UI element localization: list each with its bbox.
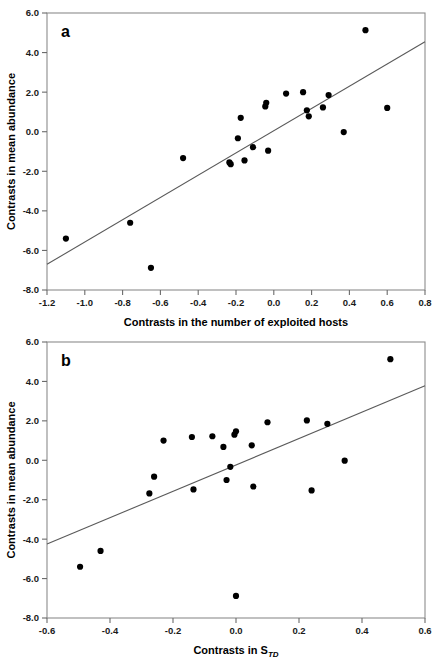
y-axis-tick-label: 6.0 bbox=[26, 336, 39, 347]
x-axis-tick-label: 0.2 bbox=[305, 297, 318, 308]
y-axis-tick-label: 6.0 bbox=[26, 7, 39, 18]
y-axis-tick-label: 4.0 bbox=[26, 47, 39, 58]
x-axis-tick-label: -0.6 bbox=[152, 297, 168, 308]
data-point bbox=[250, 483, 256, 489]
data-point bbox=[384, 105, 390, 111]
y-axis-tick-label: 2.0 bbox=[26, 415, 39, 426]
data-point bbox=[189, 434, 195, 440]
data-point bbox=[341, 129, 347, 135]
y-axis-title: Contrasts in mean abundance bbox=[5, 73, 17, 230]
data-point bbox=[127, 220, 133, 226]
x-axis-title-text: Contrasts in S bbox=[193, 644, 268, 656]
x-axis-tick-label: 0.0 bbox=[267, 297, 280, 308]
panel-b: -0.6-0.4-0.20.00.20.40.66.04.02.00.0-2.0… bbox=[0, 330, 438, 658]
x-axis-tick-label: 0.0 bbox=[229, 625, 242, 636]
data-point bbox=[209, 433, 215, 439]
x-axis-tick-label: -0.6 bbox=[39, 625, 55, 636]
regression-line bbox=[47, 42, 425, 265]
data-point bbox=[235, 135, 241, 141]
data-point bbox=[160, 437, 166, 443]
regression-line bbox=[47, 386, 425, 544]
data-point bbox=[304, 107, 310, 113]
data-point bbox=[342, 458, 348, 464]
x-axis-tick-label: 0.6 bbox=[381, 297, 394, 308]
data-point bbox=[241, 157, 247, 163]
data-point bbox=[249, 442, 255, 448]
plot-frame bbox=[47, 342, 425, 618]
data-point bbox=[309, 487, 315, 493]
y-axis-title: Contrasts in mean abundance bbox=[5, 401, 17, 558]
data-point bbox=[326, 92, 332, 98]
data-point bbox=[227, 464, 233, 470]
data-point bbox=[97, 548, 103, 554]
x-axis-tick-label: -0.2 bbox=[165, 625, 181, 636]
x-axis-tick-label: -1.2 bbox=[39, 297, 55, 308]
data-point bbox=[146, 490, 152, 496]
data-point bbox=[324, 421, 330, 427]
data-point bbox=[283, 90, 289, 96]
data-point bbox=[233, 428, 239, 434]
y-axis-tick-label: -4.0 bbox=[23, 205, 39, 216]
y-axis-tick-label: -2.0 bbox=[23, 166, 39, 177]
data-point bbox=[151, 474, 157, 480]
x-axis-tick-label: 0.2 bbox=[292, 625, 305, 636]
y-axis-tick-label: 2.0 bbox=[26, 87, 39, 98]
x-axis-tick-label: -0.4 bbox=[102, 625, 119, 636]
x-axis-tick-label: -1.0 bbox=[77, 297, 93, 308]
figure-container: -1.2-1.0-0.8-0.6-0.4-0.20.00.20.40.60.86… bbox=[0, 0, 438, 658]
data-point bbox=[148, 265, 154, 271]
x-axis-title-subscript: TD bbox=[268, 650, 279, 658]
y-axis-tick-label: 4.0 bbox=[26, 376, 39, 387]
x-axis-title-text: Contrasts in the number of exploited hos… bbox=[124, 316, 348, 328]
data-point bbox=[250, 144, 256, 150]
x-axis-title: Contrasts in STD bbox=[193, 644, 278, 658]
data-point bbox=[263, 100, 269, 106]
data-point bbox=[306, 113, 312, 119]
data-point bbox=[387, 356, 393, 362]
data-point bbox=[190, 486, 196, 492]
data-point bbox=[320, 104, 326, 110]
x-axis-tick-label: -0.4 bbox=[190, 297, 207, 308]
data-point bbox=[304, 417, 310, 423]
data-point bbox=[77, 564, 83, 570]
y-axis-tick-label: -4.0 bbox=[23, 534, 39, 545]
data-point bbox=[180, 155, 186, 161]
y-axis-tick-label: -2.0 bbox=[23, 494, 39, 505]
panel-letter: b bbox=[61, 352, 71, 369]
y-axis-tick-label: 0.0 bbox=[26, 126, 39, 137]
y-axis-tick-label: -6.0 bbox=[23, 573, 39, 584]
x-axis-tick-label: -0.2 bbox=[228, 297, 244, 308]
y-axis-tick-label: 0.0 bbox=[26, 455, 39, 466]
scatter-plot-b: -0.6-0.4-0.20.00.20.40.66.04.02.00.0-2.0… bbox=[0, 330, 438, 658]
data-point bbox=[300, 89, 306, 95]
panel-letter: a bbox=[61, 23, 70, 40]
data-point bbox=[220, 444, 226, 450]
data-point bbox=[265, 148, 271, 154]
data-point bbox=[228, 161, 234, 167]
panel-a: -1.2-1.0-0.8-0.6-0.4-0.20.00.20.40.60.86… bbox=[0, 0, 438, 330]
y-axis-tick-label: -8.0 bbox=[23, 284, 39, 295]
x-axis-tick-label: 0.4 bbox=[355, 625, 369, 636]
data-point bbox=[264, 419, 270, 425]
x-axis-tick-label: 0.6 bbox=[418, 625, 431, 636]
y-axis-tick-label: -6.0 bbox=[23, 245, 39, 256]
x-axis-tick-label: 0.8 bbox=[418, 297, 431, 308]
data-point bbox=[238, 115, 244, 121]
scatter-plot-a: -1.2-1.0-0.8-0.6-0.4-0.20.00.20.40.60.86… bbox=[0, 0, 438, 330]
data-point bbox=[63, 235, 69, 241]
x-axis-tick-label: 0.4 bbox=[343, 297, 357, 308]
x-axis-tick-label: -0.8 bbox=[114, 297, 130, 308]
data-point bbox=[362, 27, 368, 33]
x-axis-title: Contrasts in the number of exploited hos… bbox=[124, 316, 348, 328]
data-point bbox=[233, 593, 239, 599]
plot-frame bbox=[47, 13, 425, 290]
data-point bbox=[223, 477, 229, 483]
y-axis-tick-label: -8.0 bbox=[23, 612, 39, 623]
